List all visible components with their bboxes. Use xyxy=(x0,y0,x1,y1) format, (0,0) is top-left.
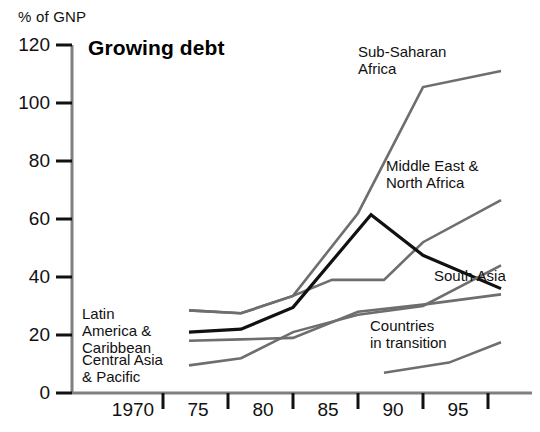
series-label-central-asia: Central Asia & Pacific xyxy=(82,352,163,386)
x-tick-label: 80 xyxy=(252,399,273,421)
x-tick-label: 95 xyxy=(447,399,468,421)
y-tick-label: 100 xyxy=(0,92,50,114)
y-tick-label: 80 xyxy=(0,150,50,172)
x-tick-label: 1970 xyxy=(112,399,154,421)
x-tick-label: 85 xyxy=(317,399,338,421)
series-lines xyxy=(189,71,501,373)
series-label-countries-transition: Countries in transition xyxy=(370,318,447,352)
y-tick-label: 0 xyxy=(0,382,50,404)
y-tick-label: 60 xyxy=(0,208,50,230)
x-tick-label: 90 xyxy=(382,399,403,421)
series-label-sub-saharan: Sub-Saharan Africa xyxy=(358,44,446,78)
series-label-latin-america: Latin America & Caribbean xyxy=(82,306,151,356)
chart-figure: % of GNP Growing debt 020406080100120 19… xyxy=(0,0,540,432)
y-tick-label: 20 xyxy=(0,324,50,346)
series-label-middle-east: Middle East & North Africa xyxy=(386,158,479,192)
chart-canvas xyxy=(0,0,540,432)
series-line-middle-east-north-africa xyxy=(189,200,501,313)
y-tick-label: 40 xyxy=(0,266,50,288)
series-label-south-asia: South Asia xyxy=(434,268,506,285)
y-tick-label: 120 xyxy=(0,34,50,56)
x-tick-label: 75 xyxy=(187,399,208,421)
